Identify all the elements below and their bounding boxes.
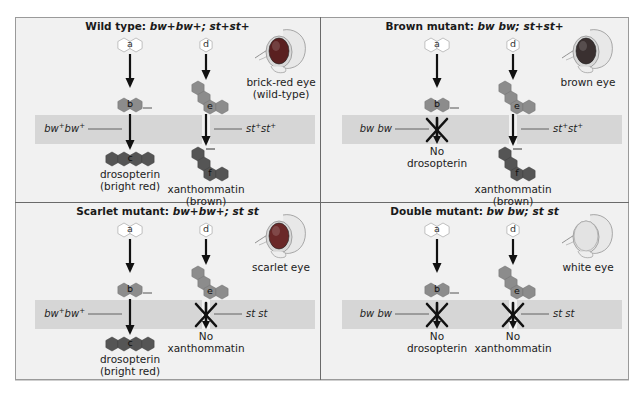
panel-genotype: bw bw; st st: [487, 205, 559, 217]
eye-color-label: white eye: [552, 261, 624, 273]
molecule-label-a: a: [432, 38, 442, 50]
molecule-label-f: f: [512, 167, 522, 179]
fly-head-icon: [255, 215, 305, 258]
panel-double-mutant: Double mutant: bw bw; st st adbe bw bw s…: [322, 203, 627, 388]
gene-label-bw: bw+bw+: [44, 123, 85, 134]
gene-label-bw: bw bw: [360, 308, 392, 319]
molecule-label-b: b: [432, 98, 442, 110]
left-product-label: drosopterin(bright red): [80, 353, 180, 377]
left-product-label: Nodrosopterin: [387, 145, 487, 169]
molecule-label-b: b: [125, 98, 135, 110]
molecule-label-b: b: [125, 283, 135, 295]
gene-label-st: st+st+: [553, 123, 583, 134]
panel-title: Brown mutant: bw bw; st+st+: [322, 20, 627, 32]
panel-genotype: bw+bw+; st st: [173, 205, 259, 217]
panel-genotype: bw+bw+; st+st+: [150, 20, 250, 32]
molecule-label-c: c: [125, 152, 135, 164]
panel-brown-mutant: Brown mutant: bw bw; st+st+ adbef bw bw …: [322, 18, 627, 203]
molecule-label-a: a: [125, 223, 135, 235]
vertical-divider: [320, 17, 321, 380]
molecule-label-a: a: [432, 223, 442, 235]
fly-head-icon: [255, 30, 305, 73]
molecule-label-c: c: [125, 337, 135, 349]
right-product-label: Noxanthommatin: [156, 330, 256, 354]
gene-label-st: st+st+: [246, 123, 276, 134]
panel-scarlet-mutant: Scarlet mutant: bw+bw+; st st adbec bw+b…: [15, 203, 320, 388]
molecule-label-d: d: [508, 38, 518, 50]
molecule-label-f: f: [205, 167, 215, 179]
eye-color-label: brown eye: [552, 76, 624, 88]
panel-wild-type: Wild type: bw+bw+; st+st+ adbecf bw+bw+ …: [15, 18, 320, 203]
fly-head-icon: [562, 215, 612, 258]
gene-label-st: st st: [246, 308, 267, 319]
molecule-label-d: d: [201, 38, 211, 50]
fly-head-icon: [562, 30, 612, 73]
right-product-label: Noxanthommatin: [463, 330, 563, 354]
eye-color-label: scarlet eye: [245, 261, 317, 273]
panel-title: Double mutant: bw bw; st st: [322, 205, 627, 217]
gene-label-bw: bw+bw+: [44, 308, 85, 319]
molecule-label-e: e: [512, 100, 522, 112]
panel-title: Scarlet mutant: bw+bw+; st st: [15, 205, 320, 217]
panel-title: Wild type: bw+bw+; st+st+: [15, 20, 320, 32]
eye-color-label: brick-red eye(wild-type): [245, 76, 317, 100]
molecule-label-e: e: [205, 285, 215, 297]
molecule-label-d: d: [508, 223, 518, 235]
gene-label-st: st st: [553, 308, 574, 319]
molecule-label-e: e: [512, 285, 522, 297]
molecule-label-a: a: [125, 38, 135, 50]
molecule-label-d: d: [201, 223, 211, 235]
molecule-label-b: b: [432, 283, 442, 295]
panel-genotype: bw bw; st+st+: [478, 20, 564, 32]
gene-label-bw: bw bw: [360, 123, 392, 134]
molecule-label-e: e: [205, 100, 215, 112]
